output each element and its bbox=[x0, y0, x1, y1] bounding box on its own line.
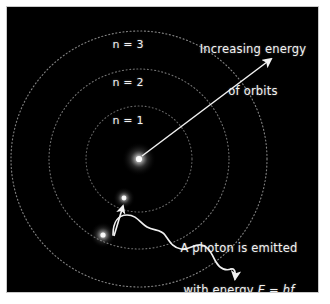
electron-excited bbox=[113, 187, 135, 209]
increasing-energy-line-2: of orbits bbox=[192, 84, 314, 98]
photon-caption-line-2: with energy E = hf bbox=[175, 283, 303, 293]
orbit-label-n1: n = 1 bbox=[93, 114, 163, 127]
increasing-energy-line-1: Increasing energy bbox=[192, 42, 314, 56]
photon-caption-line-1: A photon is emitted bbox=[175, 241, 303, 255]
nucleus bbox=[122, 142, 156, 176]
diagram-stage: n = 3 n = 2 n = 1 Increasing energy of o… bbox=[7, 7, 318, 292]
photon-emission-caption: A photon is emitted with energy E = hf bbox=[175, 213, 303, 293]
figure-container: n = 3 n = 2 n = 1 Increasing energy of o… bbox=[0, 0, 330, 304]
electron-ground bbox=[90, 222, 116, 248]
photon-equals-sign: = bbox=[265, 283, 283, 293]
orbit-label-n2: n = 2 bbox=[93, 76, 163, 89]
diagram-frame: n = 3 n = 2 n = 1 Increasing energy of o… bbox=[6, 6, 319, 293]
photon-caption-prefix: with energy bbox=[184, 283, 258, 293]
photon-symbol-hf: hf bbox=[283, 283, 295, 293]
orbit-label-n3: n = 3 bbox=[93, 38, 163, 51]
increasing-energy-caption: Increasing energy of orbits bbox=[192, 14, 314, 126]
